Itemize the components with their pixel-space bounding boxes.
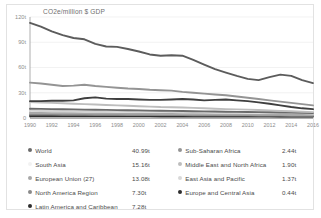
y-axis-tick-label: 0 <box>8 115 26 121</box>
legend-item-value: 2.44t <box>282 147 296 154</box>
legend-column-right: Sub-Saharan Africa2.44tMiddle East and N… <box>178 143 314 199</box>
legend-color-swatch <box>178 148 182 152</box>
x-axis-tick-label: 1998 <box>106 122 128 128</box>
legend-item-value: 7.28t <box>132 203 146 210</box>
legend-item[interactable]: European Union (27)13.08t <box>28 171 168 185</box>
y-axis-tick-label: 120t <box>8 14 26 20</box>
x-axis-tick-label: 2002 <box>150 122 172 128</box>
legend-color-swatch <box>28 176 32 180</box>
x-axis-tick-label: 2010 <box>237 122 259 128</box>
legend-item-label: World <box>35 147 52 154</box>
chart-svg <box>0 0 321 140</box>
legend-color-swatch <box>28 204 32 208</box>
legend-color-swatch <box>28 162 32 166</box>
legend-item[interactable]: South Asia15.16t <box>28 157 168 171</box>
legend-item[interactable]: Latin America and Caribbean7.28t <box>28 199 168 213</box>
series-line <box>30 83 313 106</box>
legend-color-swatch <box>178 176 182 180</box>
x-axis-tick-label: 2016 <box>302 122 321 128</box>
legend-item[interactable]: Sub-Saharan Africa2.44t <box>178 143 314 157</box>
x-axis-tick-label: 1996 <box>84 122 106 128</box>
series-lines <box>30 23 313 117</box>
legend-item-value: 1.37t <box>282 175 296 182</box>
x-axis-tick-label: 2012 <box>258 122 280 128</box>
x-axis-tick-label: 1990 <box>19 122 41 128</box>
legend-item-value: 15.16t <box>132 161 150 168</box>
legend-item-value: 13.08t <box>132 175 150 182</box>
legend-item-label: Latin America and Caribbean <box>35 203 118 210</box>
legend-item-label: European Union (27) <box>35 175 94 182</box>
chart-plot-area: 030t60t90t120t 1990199219941996199820002… <box>0 0 321 140</box>
legend-column-left: World40.99tSouth Asia15.16tEuropean Unio… <box>28 143 168 213</box>
x-axis-tick-label: 2014 <box>280 122 302 128</box>
legend-color-swatch <box>28 148 32 152</box>
x-axis-tick-label: 2006 <box>193 122 215 128</box>
chart-legend: World40.99tSouth Asia15.16tEuropean Unio… <box>0 143 321 215</box>
y-axis-tick-label: 60t <box>8 64 26 70</box>
legend-item[interactable]: Middle East and North Africa1.90t <box>178 157 314 171</box>
legend-color-swatch <box>178 190 182 194</box>
legend-item-label: South Asia <box>35 161 66 168</box>
legend-item[interactable]: East Asia and Pacific1.37t <box>178 171 314 185</box>
legend-item-value: 7.30t <box>132 189 146 196</box>
legend-color-swatch <box>178 162 182 166</box>
legend-item[interactable]: Europe and Central Asia0.44t <box>178 185 314 199</box>
legend-item-label: Europe and Central Asia <box>185 189 254 196</box>
legend-item-value: 1.90t <box>282 161 296 168</box>
legend-item-label: Sub-Saharan Africa <box>185 147 240 154</box>
x-axis-tick-label: 2004 <box>171 122 193 128</box>
legend-item-label: North America Region <box>35 189 98 196</box>
y-axis-tick-label: 90t <box>8 39 26 45</box>
legend-color-swatch <box>28 190 32 194</box>
legend-item-value: 40.99t <box>132 147 150 154</box>
legend-item-label: East Asia and Pacific <box>185 175 245 182</box>
legend-item-label: Middle East and North Africa <box>185 161 266 168</box>
legend-item[interactable]: North America Region7.30t <box>28 185 168 199</box>
x-axis-tick-label: 2000 <box>128 122 150 128</box>
legend-item-value: 0.44t <box>282 189 296 196</box>
y-axis-tick-label: 30t <box>8 90 26 96</box>
x-axis-tick-label: 2008 <box>215 122 237 128</box>
x-axis-tick-label: 1994 <box>63 122 85 128</box>
x-axis-tick-label: 1992 <box>41 122 63 128</box>
series-line <box>30 23 313 83</box>
legend-item[interactable]: World40.99t <box>28 143 168 157</box>
